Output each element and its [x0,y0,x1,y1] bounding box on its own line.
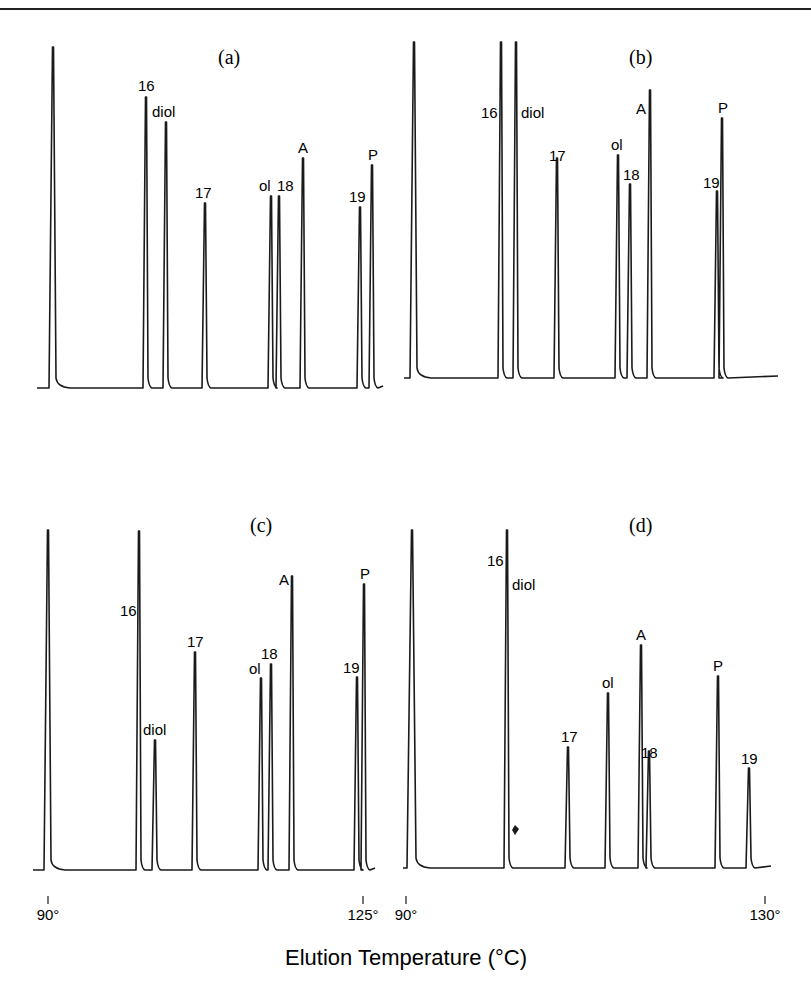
peak-label-18: 18 [641,744,658,761]
chromatogram-figure: (a)16diol17ol18A19P(b)16diol17ol18A19P(c… [0,0,811,1003]
peak-label-16: 16 [481,104,498,121]
peak-label-ol: ol [611,136,623,153]
peak-label-diol: diol [152,103,175,120]
x-tick-label: 90° [395,906,418,923]
panel-label-c: (c) [250,514,272,537]
peak-label-16: 16 [487,552,504,569]
peak-label-16: 16 [120,602,137,619]
peak-label-diol: diol [521,104,544,121]
peak-label-P: P [360,565,370,582]
x-tick-label: 125° [347,906,378,923]
trace-panel-c [33,530,375,870]
peak-label-18: 18 [261,645,278,662]
peak-label-ol: ol [602,674,614,691]
peak-label-diol: diol [512,576,535,593]
peak-label-diol: diol [143,721,166,738]
peak-label-ol: ol [259,177,271,194]
peak-label-A: A [298,139,308,156]
x-tick-label: 90° [37,906,60,923]
peak-label-17: 17 [187,633,204,650]
artifact-mark [512,825,519,835]
peak-label-A: A [279,571,289,588]
trace-panel-d [403,530,771,868]
peak-label-16: 16 [138,77,155,94]
peak-label-A: A [636,100,646,117]
peak-label-A: A [636,626,646,643]
peak-label-18: 18 [623,166,640,183]
panel-label-a: (a) [218,46,240,69]
peak-label-P: P [713,657,723,674]
peak-label-17: 17 [195,184,212,201]
peak-label-19: 19 [741,750,758,767]
peak-label-19: 19 [349,188,366,205]
peak-label-19: 19 [703,174,720,191]
peak-label-17: 17 [561,728,578,745]
peak-label-P: P [718,99,728,116]
panel-label-d: (d) [629,514,652,537]
trace-panel-a [37,47,383,388]
x-tick-label: 130° [749,906,780,923]
peak-label-P: P [368,146,378,163]
peak-label-18: 18 [277,177,294,194]
x-axis-title: Elution Temperature (°C) [285,945,527,970]
panel-label-b: (b) [629,46,652,69]
peak-label-17: 17 [549,147,566,164]
trace-panel-b [404,42,778,378]
peak-label-ol: ol [249,660,261,677]
peak-label-19: 19 [343,659,360,676]
